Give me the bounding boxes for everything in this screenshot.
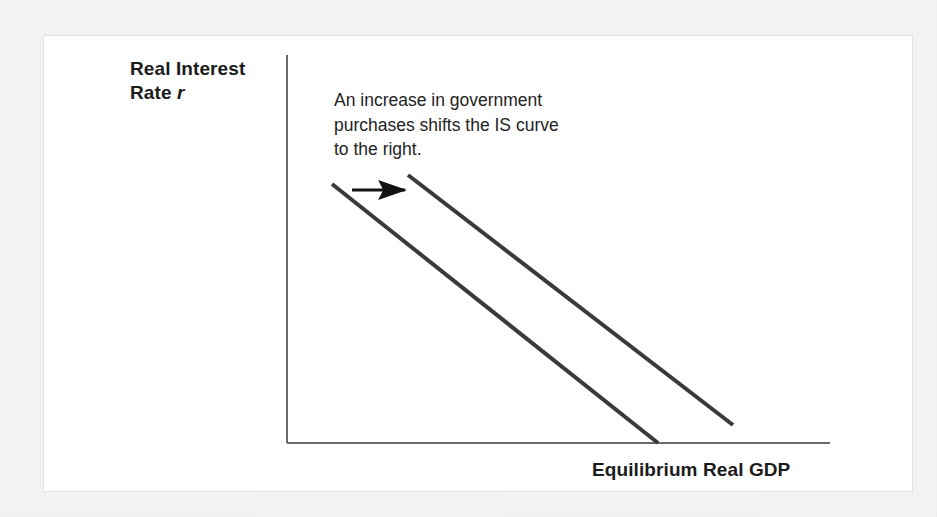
y-axis-label-variable: r (177, 82, 185, 103)
x-axis-label: Equilibrium Real GDP (592, 458, 790, 482)
y-axis-label-text: Real Interest Rate (130, 58, 245, 103)
figure-root: Real Interest Rate r Equilibrium Real GD… (0, 0, 937, 517)
annotation-note: An increase in government purchases shif… (334, 88, 634, 162)
y-axis-label: Real Interest Rate r (130, 57, 245, 105)
